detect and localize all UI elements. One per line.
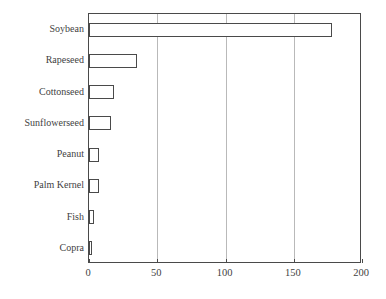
bar-row — [89, 210, 362, 224]
y-label-cottonseed: Cottonseed — [0, 86, 84, 97]
x-tick-label-200: 200 — [353, 266, 369, 279]
y-label-copra: Copra — [0, 242, 84, 253]
x-tick-label-150: 150 — [285, 266, 301, 279]
y-label-peanut: Peanut — [0, 148, 84, 159]
bar-row — [89, 241, 362, 255]
bar-row — [89, 85, 362, 99]
bar-row — [89, 116, 362, 130]
x-tick-0 — [89, 259, 90, 263]
x-tick-label-50: 50 — [151, 266, 162, 279]
x-tick-50 — [157, 259, 158, 263]
bar-rapeseed — [89, 54, 137, 68]
x-tick-200 — [362, 259, 363, 263]
bar-sunflowerseed — [89, 116, 111, 130]
bar-chart: SoybeanRapeseedCottonseedSunflowerseedPe… — [0, 0, 386, 299]
gridline-50 — [157, 14, 158, 262]
gridline-100 — [226, 14, 227, 262]
bar-row — [89, 54, 362, 68]
plot-area — [88, 13, 361, 263]
bar-row — [89, 23, 362, 37]
y-label-soybean: Soybean — [0, 23, 84, 34]
x-tick-label-100: 100 — [217, 266, 233, 279]
bar-soybean — [89, 23, 332, 37]
bar-row — [89, 179, 362, 193]
bar-copra — [89, 241, 92, 255]
x-tick-100 — [226, 259, 227, 263]
y-label-fish: Fish — [0, 211, 84, 222]
y-label-palm-kernel: Palm Kernel — [0, 179, 84, 190]
x-tick-label-0: 0 — [85, 266, 90, 279]
bar-peanut — [89, 148, 99, 162]
y-label-rapeseed: Rapeseed — [0, 54, 84, 65]
y-axis-category-labels: SoybeanRapeseedCottonseedSunflowerseedPe… — [0, 13, 84, 263]
bar-cottonseed — [89, 85, 114, 99]
y-label-sunflowerseed: Sunflowerseed — [0, 117, 84, 128]
gridline-150 — [294, 14, 295, 262]
bar-fish — [89, 210, 94, 224]
bar-row — [89, 148, 362, 162]
bar-palm-kernel — [89, 179, 99, 193]
x-tick-150 — [294, 259, 295, 263]
x-axis-tick-labels: 050100150200 — [0, 266, 386, 286]
